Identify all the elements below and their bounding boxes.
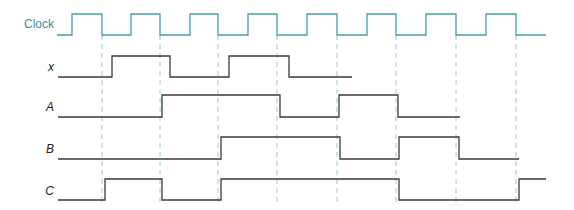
c-waveform <box>58 179 546 200</box>
clock-waveform <box>57 14 546 35</box>
b-waveform <box>58 137 519 159</box>
a-waveform <box>58 95 460 117</box>
timing-diagram <box>0 0 574 210</box>
